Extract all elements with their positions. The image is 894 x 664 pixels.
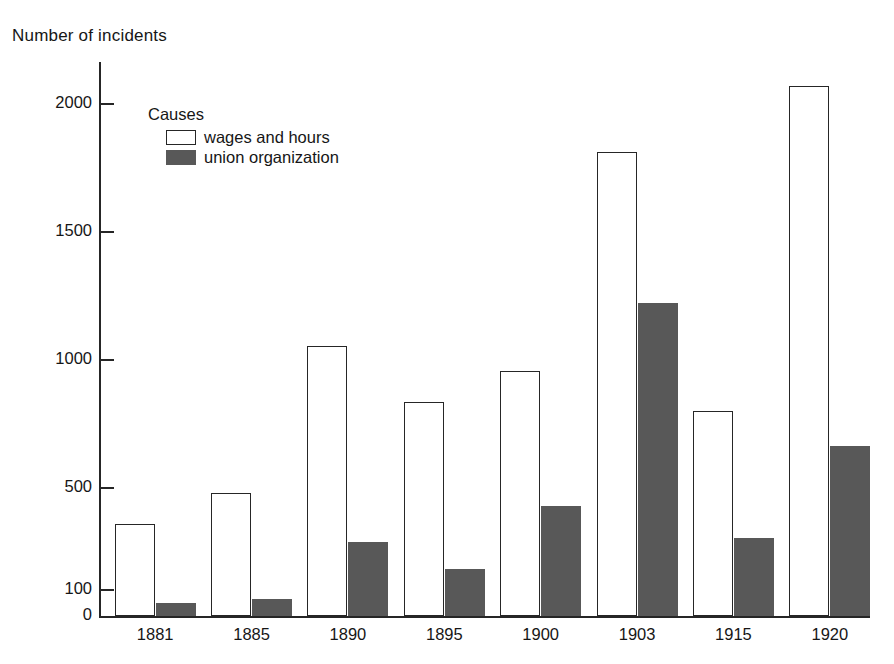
y-axis-tick-label: 1000 [55,349,92,368]
bar-1895-wages-and-hours [404,402,444,616]
y-axis-tick-label: 500 [64,477,92,496]
bar-1920-wages-and-hours [789,86,829,616]
legend-entry-union-organization: union organization [166,148,339,166]
bar-1915-union-organization [734,538,774,616]
bar-chart: Number of incidents 0100500100015002000 … [0,0,894,664]
x-axis-label-1881: 1881 [103,625,208,644]
bar-1903-wages-and-hours [597,152,637,616]
plot-area: 0100500100015002000 18811885189018951900… [0,0,894,664]
y-axis-tick-label: 0 [83,605,92,624]
x-axis-label-1915: 1915 [681,625,786,644]
bar-1881-wages-and-hours [115,524,155,616]
y-axis-line [99,62,101,618]
bar-1881-union-organization [156,603,196,616]
y-axis-tick [101,359,114,361]
legend-title: Causes [148,105,339,124]
bar-1885-wages-and-hours [211,493,251,616]
bar-1900-union-organization [541,506,581,616]
legend-label-wages-and-hours: wages and hours [204,128,330,146]
bar-1903-union-organization [638,303,678,616]
bar-1920-union-organization [830,446,870,616]
y-axis-tick-label: 100 [64,579,92,598]
x-axis-label-1890: 1890 [295,625,400,644]
legend-swatch-filled-rectangle-icon [166,150,196,165]
bar-1885-union-organization [252,599,292,616]
bar-1895-union-organization [445,569,485,616]
bar-1900-wages-and-hours [500,371,540,616]
legend-entry-wages-and-hours: wages and hours [166,128,339,146]
x-axis-label-1920: 1920 [777,625,882,644]
y-axis-tick-label: 1500 [55,221,92,240]
legend: Causes wages and hours union organizatio… [148,105,339,168]
y-axis-tick-label: 2000 [55,93,92,112]
bar-1890-wages-and-hours [307,346,347,616]
legend-swatch-open-rectangle-icon [166,130,196,145]
x-axis-label-1895: 1895 [392,625,497,644]
y-axis-tick [101,231,114,233]
x-axis-label-1903: 1903 [585,625,690,644]
x-axis-label-1885: 1885 [199,625,304,644]
y-axis-tick [101,103,114,105]
x-axis-line [99,616,870,618]
y-axis-tick [101,589,114,591]
bar-1890-union-organization [348,542,388,616]
x-axis-label-1900: 1900 [488,625,593,644]
bar-1915-wages-and-hours [693,411,733,616]
y-axis-tick [101,487,114,489]
legend-label-union-organization: union organization [204,148,339,166]
